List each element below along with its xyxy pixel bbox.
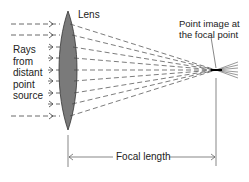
lens-label: Lens	[78, 9, 100, 20]
rays-label-line: point	[13, 79, 43, 91]
rays-label-line: Rays	[13, 44, 43, 56]
focal-point-pointer	[211, 37, 216, 68]
focal-length-label: Focal length	[116, 151, 170, 162]
focal-point-label-line2: the focal point	[179, 29, 238, 40]
rays-label-line: distant	[13, 67, 43, 79]
focal-point-label-line1: Point image at	[179, 18, 240, 29]
lens-shape	[59, 11, 77, 130]
rays-label: Rays from distant point source	[13, 44, 43, 102]
rays-label-line: source	[13, 90, 43, 102]
rays-label-line: from	[13, 56, 43, 68]
